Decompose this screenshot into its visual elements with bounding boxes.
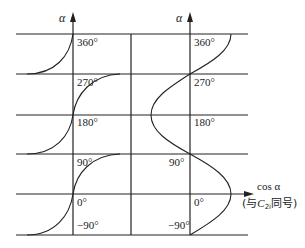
svg-text:−90°: −90° <box>168 219 190 231</box>
svg-text:0°: 0° <box>194 196 204 208</box>
left-curve-segment-3 <box>27 34 73 74</box>
diagram-canvas: α α 360° 270° 180° 90° 0° −90° 360° 270°… <box>0 0 305 248</box>
svg-text:90°: 90° <box>77 156 92 168</box>
svg-text:0°: 0° <box>77 196 87 208</box>
svg-text:180°: 180° <box>77 116 98 128</box>
svg-text:180°: 180° <box>194 116 215 128</box>
cos-alpha-label: cos α <box>257 180 280 192</box>
svg-text:270°: 270° <box>77 76 98 88</box>
sign-note: (与C2i同号) <box>242 197 297 211</box>
left-alpha-label: α <box>59 11 66 25</box>
cosine-curve <box>151 34 231 235</box>
left-axis-arrow-icon <box>70 12 76 22</box>
svg-text:360°: 360° <box>77 36 98 48</box>
right-axis-arrow-icon <box>187 12 193 22</box>
svg-text:−90°: −90° <box>77 219 99 231</box>
right-tick-labels: 360° 270° 180° 90° 0° −90° <box>168 36 215 231</box>
svg-text:90°: 90° <box>169 156 184 168</box>
svg-text:360°: 360° <box>194 36 215 48</box>
horizontal-grid-lines <box>16 34 248 235</box>
right-alpha-label: α <box>176 11 183 25</box>
svg-text:270°: 270° <box>194 76 215 88</box>
left-tick-labels: 360° 270° 180° 90° 0° −90° <box>77 36 99 231</box>
